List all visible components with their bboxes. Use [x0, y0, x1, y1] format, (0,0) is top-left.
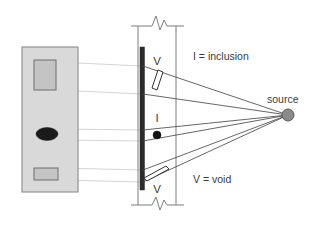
- marker-void-top-label: V: [153, 55, 161, 67]
- film-image-inclusion: [36, 128, 58, 141]
- detector-bar: [140, 47, 145, 190]
- radiographic-inspection-diagram: I = inclusion V = void source V I V: [0, 0, 315, 229]
- wall-bottom-zigzag: [152, 197, 167, 210]
- film-image-void-top: [34, 60, 56, 90]
- diagram-canvas: I = inclusion V = void source V I V: [0, 0, 315, 229]
- marker-inclusion-label: I: [155, 112, 158, 124]
- film-image-void-bottom: [34, 168, 58, 180]
- wall-defect-inclusion: [153, 131, 161, 139]
- film-panel-group: [22, 47, 78, 192]
- ray-void-top-upper: [143, 66, 288, 115]
- ray-void-bottom-upper: [143, 115, 288, 170]
- source-label: source: [267, 93, 299, 105]
- source-point-icon: [282, 109, 294, 121]
- ray-void-bottom-lower: [143, 115, 288, 182]
- ray-fan-group: [143, 66, 288, 182]
- marker-void-bottom-label: V: [153, 183, 161, 195]
- wall-defect-void-top: [152, 70, 163, 90]
- wall-top-zigzag: [152, 16, 167, 30]
- wall-defects-group: [144, 70, 169, 181]
- legend-inclusion-label: I = inclusion: [193, 50, 249, 62]
- legend-void-label: V = void: [193, 173, 231, 185]
